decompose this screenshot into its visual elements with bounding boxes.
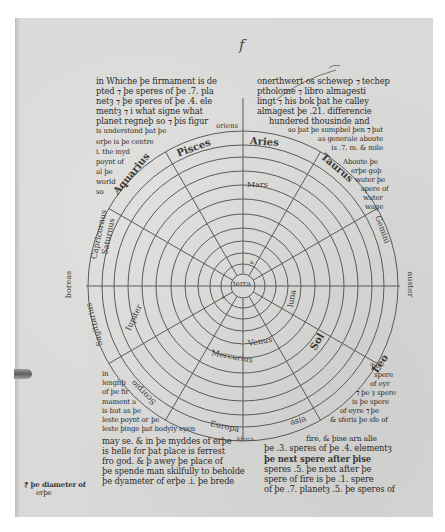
text-line: pted ⁊ þe speres of þe .7. pla [96, 86, 217, 96]
cardinal-label-east: auster [406, 272, 415, 298]
element-label-a: a [250, 258, 254, 265]
text-line: leste þinge þat bodyly eyen [102, 425, 195, 434]
text-line: lingt ⁊ his bok þat he calley [257, 96, 390, 106]
text-line: may se. & in þe myddes of erþe [102, 436, 245, 446]
margin-note-line: erþe [24, 489, 86, 498]
text-line: þe dyameter of erþe .i. þe brede [102, 476, 245, 486]
text-line: spere of [343, 185, 389, 194]
text-line: is .7. m. & mile [288, 144, 383, 153]
text-line: is but as þe [102, 407, 195, 416]
text-line: erþe goþ [343, 167, 389, 176]
cardinal-label-west: boreas [64, 271, 73, 298]
text-line: mentȝ ⁊ i what signe what [96, 106, 217, 116]
text-line: as generale aboute [288, 135, 383, 144]
text-line: onerthwert os schewep ⁊ techep [257, 76, 390, 86]
text-block-lower-right-b: þe .3. speres of þe .4. elementȝ [264, 443, 392, 453]
text-line: in Whiche þe firmament is de [96, 76, 217, 86]
text-line: hundered thousinde and [257, 116, 390, 126]
text-line: speres .5. þe next after þe [264, 464, 395, 474]
text-line: i. the myd [96, 147, 217, 157]
text-line: poynt of [96, 157, 217, 167]
margin-note: ⁋ þe diameter of erþe [24, 480, 86, 498]
text-line: lenghþ [102, 379, 195, 388]
text-line: is helle for þat place is ferrest [102, 446, 245, 456]
text-block-upper-right-wrap: so þat þe sumpbel þen ⁊ þat as generale … [288, 126, 383, 153]
element-label-i: i [222, 293, 224, 300]
text-line: þe next spere after þise [264, 454, 395, 464]
text-line: so þat þe sumpbel þen ⁊ þat [288, 126, 383, 135]
text-line: of eyre ⁊ þe [340, 407, 396, 416]
text-line: fire, & þise arn alle [292, 434, 377, 443]
text-line: erþe is þe centre [96, 137, 217, 147]
text-block-lower-right: þe next spere after þise speres .5. þe n… [264, 454, 395, 494]
text-block-right-margin: Aboute þe erþe goþ water þe spere of wat… [343, 158, 389, 212]
text-line: Aboute þe [343, 158, 389, 167]
text-line: water þe [343, 176, 389, 185]
text-line: þe spende man skilfully to beholde [102, 466, 245, 476]
text-line: of eyr [370, 380, 396, 389]
text-line: ptholome ⁊ libro almagesti [257, 86, 390, 96]
text-line: of þe .7. planetȝ .5. þe speres of [264, 484, 395, 494]
margin-note-line: ⁋ þe diameter of [24, 480, 86, 489]
text-line: planet regneþ so ⁊ þis figur [96, 116, 217, 126]
text-block-right-lower: ⁱþe spere of eyr ⁊ þe ȝ spere is þe sper… [370, 362, 396, 425]
cardinal-label-top: oriens [216, 122, 238, 130]
text-line: of þe fir [102, 388, 195, 397]
center-label-terra: terra [233, 280, 251, 288]
text-block-upper-right: onerthwert os schewep ⁊ techep ptholome … [257, 76, 390, 126]
text-line: is understond þat þe [96, 126, 217, 136]
text-line: ⁱþe [370, 362, 396, 371]
text-line: mament a [102, 398, 195, 407]
text-line: almagest þe .21. differencie [257, 106, 390, 116]
text-line: & sferis þe sfe of [330, 416, 396, 425]
text-block-lower-right-a: fire, & þise arn alle [292, 434, 377, 443]
text-line: þe .3. speres of þe .4. elementȝ [264, 443, 392, 453]
text-block-upper-left: in Whiche þe firmament is de pted ⁊ þe s… [96, 76, 217, 197]
text-line: world [96, 177, 217, 187]
text-line: in [102, 370, 195, 379]
text-line: ⁊ þe ȝ spere [356, 389, 396, 398]
planet-label-mars: Mars [247, 180, 268, 189]
text-block-lower-left-full: may se. & in þe myddes of erþe is helle … [102, 436, 245, 486]
text-line: is þe spere [352, 398, 396, 407]
text-line: leste poynt or þe [102, 416, 195, 425]
text-line: al þe [96, 167, 217, 177]
text-line: fro god. & þ awey þe place of [102, 456, 245, 466]
text-block-lower-left: in lenghþ of þe fir mament a is but as þ… [102, 370, 195, 434]
text-line: water [343, 194, 389, 203]
zodiac-label-aries: Aries [250, 135, 280, 148]
text-line: wage [343, 203, 389, 212]
text-line: spere [370, 371, 396, 380]
text-line: spere of fire is þe .1. spere [264, 474, 395, 484]
text-line: netȝ ⁊ þe speres of þe .4. ele [96, 96, 217, 106]
text-line: so [96, 187, 217, 197]
